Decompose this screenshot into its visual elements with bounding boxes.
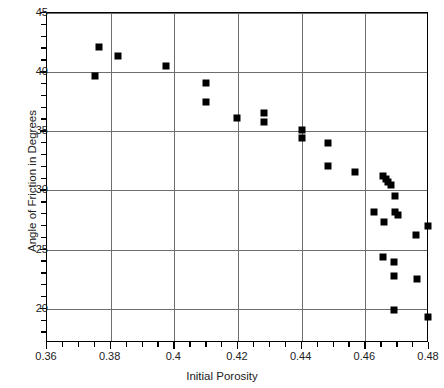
y-tick-minor — [41, 296, 46, 297]
y-tick-minor — [41, 284, 46, 285]
y-axis-title: Angle of Friction in Degrees — [26, 91, 38, 271]
data-point-marker — [371, 208, 378, 215]
x-tick-minor — [142, 342, 143, 347]
y-tick-minor — [41, 213, 46, 214]
data-point-marker — [391, 192, 398, 199]
x-tick-major — [237, 342, 238, 349]
x-tick-minor — [412, 342, 413, 347]
data-point-marker — [202, 79, 209, 86]
x-tick-minor — [317, 342, 318, 347]
gridline-horizontal — [47, 131, 427, 132]
x-axis-title: Initial Porosity — [0, 370, 444, 382]
data-point-marker — [115, 52, 122, 59]
x-tick-label: 0.4 — [166, 351, 181, 362]
y-tick-minor — [41, 320, 46, 321]
data-point-marker — [413, 275, 420, 282]
data-point-marker — [261, 118, 268, 125]
y-tick-label: 45 — [36, 7, 48, 18]
data-point-marker — [92, 73, 99, 80]
y-tick-label: 40 — [36, 66, 48, 77]
x-tick-major — [110, 342, 111, 349]
gridline-horizontal — [47, 309, 427, 310]
y-tick-minor — [41, 95, 46, 96]
data-point-marker — [298, 126, 305, 133]
gridline-vertical — [365, 13, 366, 341]
y-tick-minor — [41, 118, 46, 119]
y-tick-minor — [41, 201, 46, 202]
data-point-marker — [324, 162, 331, 169]
data-point-marker — [351, 169, 358, 176]
x-tick-minor — [94, 342, 95, 347]
data-point-marker — [395, 212, 402, 219]
x-tick-major — [46, 342, 47, 349]
scatter-chart-figure: 202530354045 0.360.380.40.420.440.460.48… — [0, 0, 444, 388]
y-tick-minor — [41, 142, 46, 143]
y-tick-minor — [41, 154, 46, 155]
data-point-marker — [380, 219, 387, 226]
data-point-marker — [234, 114, 241, 121]
x-tick-minor — [157, 342, 158, 347]
y-tick-minor — [41, 178, 46, 179]
x-tick-minor — [189, 342, 190, 347]
x-tick-major — [301, 342, 302, 349]
gridline-horizontal — [47, 190, 427, 191]
data-point-marker — [425, 313, 432, 320]
data-point-marker — [261, 109, 268, 116]
gridline-vertical — [111, 13, 112, 341]
x-tick-major — [173, 342, 174, 349]
x-tick-minor — [348, 342, 349, 347]
x-tick-minor — [205, 342, 206, 347]
y-tick-minor — [41, 83, 46, 84]
gridline-vertical — [174, 13, 175, 341]
gridline-horizontal — [47, 250, 427, 251]
data-point-marker — [387, 181, 394, 188]
data-point-marker — [163, 63, 170, 70]
y-tick-minor — [41, 36, 46, 37]
gridline-horizontal — [47, 72, 427, 73]
data-point-marker — [96, 43, 103, 50]
y-tick-minor — [41, 166, 46, 167]
x-tick-label: 0.44 — [290, 351, 311, 362]
x-tick-minor — [380, 342, 381, 347]
x-tick-label: 0.38 — [99, 351, 120, 362]
data-point-marker — [425, 222, 432, 229]
y-tick-minor — [41, 237, 46, 238]
x-tick-major — [428, 342, 429, 349]
gridline-vertical — [238, 13, 239, 341]
x-tick-minor — [269, 342, 270, 347]
data-point-marker — [390, 258, 397, 265]
gridline-vertical — [302, 13, 303, 341]
x-tick-label: 0.48 — [417, 351, 438, 362]
data-point-marker — [298, 134, 305, 141]
y-tick-minor — [41, 331, 46, 332]
gridline-horizontal — [47, 13, 427, 14]
x-tick-label: 0.36 — [35, 351, 56, 362]
x-tick-minor — [221, 342, 222, 347]
x-tick-label: 0.46 — [354, 351, 375, 362]
data-point-marker — [324, 140, 331, 147]
x-tick-minor — [333, 342, 334, 347]
y-tick-minor — [41, 107, 46, 108]
x-tick-minor — [285, 342, 286, 347]
data-point-marker — [379, 253, 386, 260]
x-tick-major — [364, 342, 365, 349]
data-point-marker — [202, 98, 209, 105]
y-tick-minor — [41, 24, 46, 25]
data-point-marker — [413, 231, 420, 238]
plot-area — [46, 12, 428, 342]
y-tick-minor — [41, 47, 46, 48]
x-tick-label: 0.42 — [226, 351, 247, 362]
y-tick-label: 20 — [36, 302, 48, 313]
y-tick-minor — [41, 59, 46, 60]
data-point-marker — [390, 272, 397, 279]
data-point-marker — [390, 307, 397, 314]
x-tick-minor — [78, 342, 79, 347]
y-tick-minor — [41, 272, 46, 273]
x-tick-minor — [253, 342, 254, 347]
y-tick-minor — [41, 260, 46, 261]
x-tick-minor — [126, 342, 127, 347]
x-tick-minor — [62, 342, 63, 347]
x-tick-minor — [396, 342, 397, 347]
y-tick-minor — [41, 225, 46, 226]
